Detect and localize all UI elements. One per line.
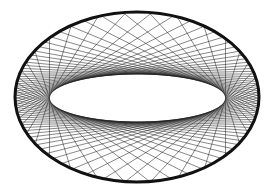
tangent-chord bbox=[72, 91, 258, 169]
tangent-chord bbox=[34, 51, 258, 91]
tangent-chord bbox=[70, 26, 258, 105]
outer-ellipse bbox=[15, 12, 259, 182]
ellipse-envelope-figure bbox=[0, 0, 275, 196]
tangent-chord bbox=[15, 51, 239, 91]
tangent-chord bbox=[26, 62, 258, 84]
tangent-chord bbox=[16, 26, 205, 105]
diagram-canvas bbox=[0, 0, 275, 196]
tangent-chord bbox=[24, 65, 257, 81]
tangent-chord bbox=[15, 97, 221, 158]
tangent-chord bbox=[101, 16, 257, 113]
tangent-chord bbox=[36, 105, 258, 145]
tangent-chord bbox=[18, 114, 250, 130]
